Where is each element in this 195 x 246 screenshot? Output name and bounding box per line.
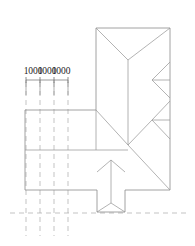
roof-plan-svg: 1000 1000 1000 bbox=[0, 0, 195, 246]
roof-plan-drawing: 1000 1000 1000 bbox=[0, 0, 195, 246]
drawing-background bbox=[0, 0, 195, 246]
dimension-label-3: 1000 bbox=[52, 66, 71, 76]
